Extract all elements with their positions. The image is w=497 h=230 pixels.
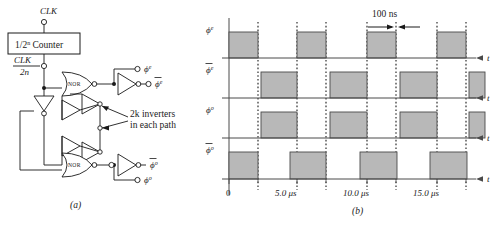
trace-phi-even-bar: t ϕe: [206, 64, 491, 104]
annotation-arrowhead-left: [398, 24, 405, 29]
svg-text:ϕe: ϕe: [206, 65, 214, 75]
inverter-input-bubble: [42, 111, 47, 116]
output-inverter-bottom: [118, 154, 136, 176]
x-tick-label-3: 15.0 μs: [413, 188, 440, 198]
annotation-line-1: 2k inverters: [130, 109, 175, 119]
divided-clock-denominator: 2n: [20, 67, 30, 77]
x-tick-label-0: 0: [226, 188, 231, 198]
chain-node-middle: [98, 126, 102, 130]
pulse: [430, 152, 467, 179]
panel-b-timing: t ϕe t ϕe t: [206, 9, 491, 217]
phi-odd-bar-inner-terminal: [109, 162, 114, 167]
pulse: [437, 32, 466, 58]
chain-node-lower: [98, 150, 102, 154]
pulse: [297, 32, 326, 58]
inverter-input: [34, 96, 54, 111]
nor-gate-top: NOR: [62, 72, 97, 96]
annotation-arrowhead-right: [387, 24, 394, 29]
trace-phi-odd-bar: t ϕo: [206, 144, 491, 185]
nor-bottom-bubble: [92, 163, 97, 168]
panel-b-caption: (b): [352, 206, 363, 217]
phi-odd-bar-sup: o: [155, 160, 158, 166]
svg-text:ϕe: ϕe: [206, 25, 214, 35]
annotation-line-2: in each path: [130, 120, 176, 130]
pulse: [400, 72, 437, 98]
axis-label-t-2: t: [487, 93, 490, 103]
figure-svg: CLK 1/2n Counter CLK 2n NOR: [0, 0, 497, 230]
phi-even-bar-terminal[interactable]: [146, 81, 151, 86]
phi-odd-sup: o: [149, 175, 152, 181]
output-inverter-top: [118, 73, 136, 95]
panel-a-caption: (a): [70, 200, 81, 211]
pulse: [261, 72, 297, 98]
svg-text:ϕo: ϕo: [150, 160, 158, 170]
output-label-phi-odd: ϕo: [144, 175, 152, 185]
row3-sup: o: [211, 105, 214, 111]
pulse: [469, 112, 485, 138]
trace-phi-odd: t ϕo: [206, 105, 490, 143]
pulse: [367, 32, 396, 58]
pulse: [400, 112, 437, 138]
pulse: [229, 32, 258, 58]
annotation-arrowhead-lower: [102, 126, 109, 131]
output-label-phi-even: ϕe: [144, 64, 152, 74]
axis-label-t-4: t: [487, 174, 490, 184]
pulse: [330, 112, 367, 138]
row2-sup: e: [211, 65, 214, 71]
phi-even-terminal[interactable]: [135, 66, 140, 71]
axis-arrow-1: [476, 55, 483, 61]
axis-arrow-4: [476, 176, 483, 182]
row4-sup: o: [211, 145, 214, 151]
counter-fraction: 1/2: [15, 40, 27, 50]
axis-label-t-3: t: [487, 133, 490, 143]
clk-terminal: [41, 19, 46, 24]
nor-gate-top-label: NOR: [68, 81, 81, 87]
pulse: [360, 152, 397, 179]
phi-even-bar-sup: e: [160, 79, 163, 85]
row1-sup: e: [211, 25, 214, 31]
row-label-phi-odd-bar: ϕo: [206, 144, 214, 156]
x-tick-label-1: 5.0 μs: [275, 188, 297, 198]
axis-label-t-1: t: [487, 53, 490, 63]
row-label-phi-odd: ϕo: [206, 105, 214, 115]
panel-a-circuit: CLK 1/2n Counter CLK 2n NOR: [8, 6, 176, 211]
nor-gate-bottom-label: NOR: [68, 162, 81, 168]
row-label-phi-even-bar: ϕe: [206, 64, 214, 76]
output-inverter-bottom-bubble: [136, 163, 141, 168]
pulse: [229, 152, 258, 179]
counter-word: Counter: [30, 40, 64, 50]
trace-phi-even: t ϕe: [206, 25, 490, 63]
svg-text:ϕo: ϕo: [206, 105, 214, 115]
chain-node-upper: [98, 102, 102, 106]
phi-even-sup: e: [149, 64, 152, 70]
inverter-chain-1: [62, 100, 80, 120]
pulse: [261, 112, 297, 138]
svg-text:ϕo: ϕo: [206, 145, 214, 155]
row-label-phi-even: ϕe: [206, 25, 214, 35]
divided-clock-numerator: CLK: [14, 55, 32, 65]
output-label-phi-even-bar: ϕe: [155, 78, 163, 90]
inverter-chain-2: [82, 94, 100, 114]
clk-label: CLK: [40, 6, 58, 16]
figure-container: CLK 1/2n Counter CLK 2n NOR: [0, 0, 497, 230]
annotation-100ns: 100 ns: [368, 9, 420, 30]
nor-top-bubble: [92, 82, 97, 87]
output-label-phi-odd-bar: ϕo: [150, 159, 158, 171]
x-tick-label-2: 10.0 μs: [343, 188, 370, 198]
annotation-100ns-label: 100 ns: [372, 9, 397, 19]
divided-clock-terminal: [41, 63, 46, 68]
pulse: [330, 72, 367, 98]
svg-text:ϕe: ϕe: [155, 79, 163, 89]
output-inverter-top-bubble: [136, 82, 141, 87]
phi-odd-terminal[interactable]: [135, 177, 140, 182]
pulse: [290, 152, 326, 179]
inverters-annotation: 2k inverters in each path: [102, 106, 176, 131]
x-axis-ticks: 0 5.0 μs 10.0 μs 15.0 μs: [226, 179, 466, 198]
pulse: [469, 72, 485, 98]
counter-box-label: 1/2n Counter: [15, 40, 64, 51]
